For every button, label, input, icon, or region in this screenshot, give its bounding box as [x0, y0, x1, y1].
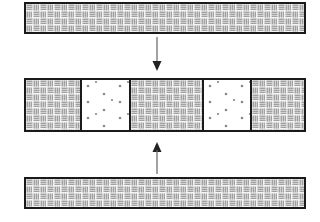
arrow-down-icon: [150, 37, 164, 73]
segment-dotted-1: [80, 80, 130, 130]
woven-pattern: [252, 80, 304, 130]
woven-pattern: [26, 179, 304, 207]
segment-woven-1: [26, 80, 81, 130]
bottom-woven-strip: [24, 177, 306, 209]
woven-pattern: [26, 4, 304, 32]
segment-woven-3: [250, 80, 304, 130]
segment-dotted-2: [202, 80, 252, 130]
dotted-pattern: [204, 80, 252, 130]
segment-woven-2: [129, 80, 203, 130]
middle-composite-strip: [24, 78, 306, 132]
top-woven-strip: [24, 2, 306, 34]
dotted-pattern: [82, 80, 130, 130]
woven-pattern: [131, 80, 203, 130]
woven-pattern: [26, 80, 81, 130]
arrow-up-icon: [150, 140, 164, 174]
